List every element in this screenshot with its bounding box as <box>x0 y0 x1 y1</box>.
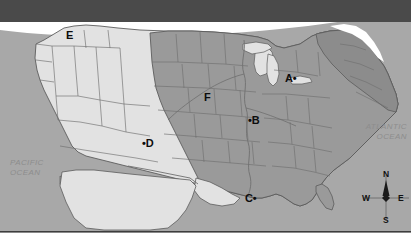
compass-east-label: E <box>398 194 404 203</box>
map-figure: A• •B C• •D E F PACIFIC OCEAN ATLANTIC O… <box>0 0 418 245</box>
map-label-e-text: E <box>66 29 73 41</box>
map-label-d-text: D <box>146 137 154 149</box>
map-label-f-text: F <box>204 91 211 103</box>
map-label-b-text: B <box>252 114 260 126</box>
atlantic-ocean-label: ATLANTIC OCEAN <box>345 122 407 142</box>
map-label-a-text: A <box>285 72 293 84</box>
pacific-ocean-label-line2: OCEAN <box>10 168 44 178</box>
map-label-a-dot: • <box>293 72 297 84</box>
right-margin <box>411 0 418 245</box>
pacific-ocean-label-line1: PACIFIC <box>10 158 44 168</box>
map-label-a: A• <box>285 73 296 84</box>
map-label-c-text: C <box>245 192 253 204</box>
compass-west-label: W <box>362 194 370 203</box>
mexico-land <box>60 170 196 230</box>
compass-south-label: S <box>383 216 389 225</box>
pacific-ocean-label: PACIFIC OCEAN <box>10 158 44 178</box>
map-label-b: •B <box>248 115 259 126</box>
map-label-c: C• <box>245 193 256 204</box>
map-label-f: F <box>204 92 211 103</box>
atlantic-ocean-label-line1: ATLANTIC <box>345 122 407 132</box>
atlantic-ocean-label-line2: OCEAN <box>345 132 407 142</box>
map-label-d: •D <box>142 138 153 149</box>
bottom-margin <box>0 233 418 245</box>
top-band <box>0 0 418 22</box>
map-label-e: E <box>66 30 73 41</box>
map-label-c-dot: • <box>253 192 257 204</box>
compass-north-label: N <box>383 170 389 179</box>
bottom-rule <box>0 231 411 233</box>
